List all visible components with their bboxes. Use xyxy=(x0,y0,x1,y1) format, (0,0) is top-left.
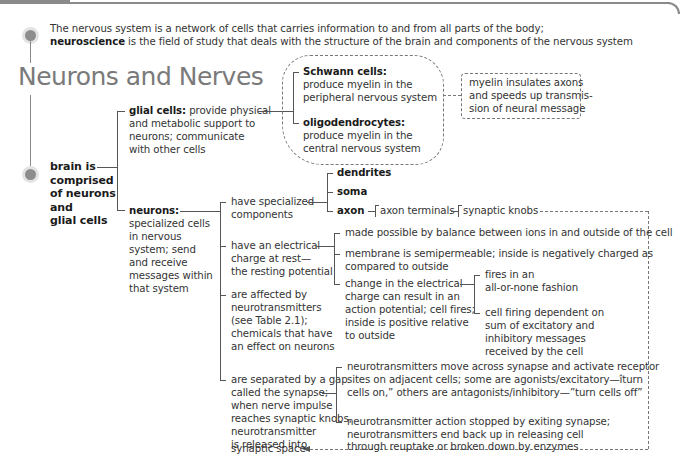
neurons-desc-4: and receive xyxy=(129,257,188,270)
resting-point-3e: to outside xyxy=(345,330,395,343)
myelin-note-2: and speeds up transmis- xyxy=(469,90,593,103)
connector xyxy=(117,111,118,210)
timeline-line xyxy=(30,41,31,63)
firing-2a: cell firing dependent on xyxy=(485,307,604,320)
connector xyxy=(316,246,334,247)
connector xyxy=(293,123,299,124)
dashed-connector xyxy=(540,211,648,212)
connector xyxy=(336,367,342,368)
branch-resting-3: the resting potential xyxy=(231,266,333,279)
firing-1a: fires in an xyxy=(485,269,534,282)
connector xyxy=(117,210,125,211)
root-label-1: brain is xyxy=(50,160,96,174)
branch-nt-1: are affected by xyxy=(231,289,307,302)
branch-syn-2: called the synapse; xyxy=(231,387,328,400)
top-bar-corner xyxy=(660,2,680,14)
intro-line-1: The nervous system is a network of cells… xyxy=(50,23,544,36)
firing-2b: sum of excitatory and xyxy=(485,320,594,333)
resting-point-3c: action potential; cell fires; xyxy=(345,304,475,317)
glial-line-1: glial cells: provide physical xyxy=(129,105,271,118)
oligo-line-1: produce myelin in the xyxy=(303,130,412,143)
schwann-line-1: produce myelin in the xyxy=(303,79,412,92)
connector xyxy=(220,202,226,203)
resting-point-1: made possible by balance between ions in… xyxy=(345,227,672,240)
branch-syn-7: synaptic space xyxy=(231,443,306,456)
connector xyxy=(180,211,220,212)
resting-point-2a: membrane is semipermeable; inside is neg… xyxy=(345,248,653,261)
neurons-desc-5: messages within xyxy=(129,270,213,283)
neurons-term: neurons: xyxy=(129,205,179,218)
connector xyxy=(336,367,337,422)
connector xyxy=(293,72,299,73)
branch-nt-3: (see Table 2.1); xyxy=(231,315,308,328)
dashed-connector xyxy=(443,95,461,96)
synapse-2c: through reuptake or broken down by enzym… xyxy=(347,441,578,454)
connector xyxy=(334,233,335,284)
glial-line-4: with other cells xyxy=(129,144,205,157)
connector xyxy=(220,246,226,247)
connector xyxy=(327,211,333,212)
schwann-line-2: peripheral nervous system xyxy=(303,92,437,105)
connector xyxy=(322,393,336,394)
connector xyxy=(474,275,475,313)
connector xyxy=(368,211,375,212)
connector xyxy=(293,111,294,123)
component-dendrites: dendrites xyxy=(337,167,391,180)
branch-syn-4: reaches synaptic knobs, xyxy=(231,413,352,426)
connector xyxy=(97,167,117,168)
neurons-desc-3: system; send xyxy=(129,244,196,257)
connector xyxy=(375,205,376,217)
myelin-note-3: sion of neural message xyxy=(469,103,585,116)
connector xyxy=(460,284,474,285)
resting-point-3b: charge can result in an xyxy=(345,291,460,304)
branch-nt-5: an effect on neurons xyxy=(231,341,335,354)
connector xyxy=(474,313,480,314)
connector xyxy=(458,205,459,217)
top-bar-rule xyxy=(70,2,670,4)
intro-rest: is the field of study that deals with th… xyxy=(125,36,633,47)
synapse-1a: neurotransmitters move across synapse an… xyxy=(347,361,659,374)
synapse-1b: sites on adjacent cells; some are agonis… xyxy=(347,374,643,387)
neurons-desc-6: that system xyxy=(129,283,189,296)
connector xyxy=(334,254,340,255)
branch-syn-3: when nerve impulse xyxy=(231,400,332,413)
connector xyxy=(220,380,226,381)
root-label-5: glial cells xyxy=(50,214,107,228)
connector xyxy=(327,192,333,193)
branch-syn-1: are separated by a gap xyxy=(231,374,348,387)
firing-2c: inhibitory messages xyxy=(485,333,586,346)
connector xyxy=(307,202,327,203)
timeline-line xyxy=(30,95,31,169)
connector xyxy=(293,72,294,111)
branch-nt-4: chemicals that have xyxy=(231,328,332,341)
connector xyxy=(327,173,333,174)
root-label-3: of neurons xyxy=(50,187,116,201)
axon-terminals: axon terminals xyxy=(380,205,454,218)
connector xyxy=(458,205,462,206)
myelin-note-1: myelin insulates axons xyxy=(469,77,583,90)
component-axon: axon xyxy=(337,205,364,218)
connector xyxy=(220,202,221,380)
intro-term: neuroscience xyxy=(50,36,125,47)
connector xyxy=(336,422,342,423)
root-label-2: comprised xyxy=(50,174,114,188)
resting-point-3d: inside is positive relative xyxy=(345,317,469,330)
intro-line-2: neuroscience is the field of study that … xyxy=(50,36,633,49)
top-bar-tab xyxy=(0,0,70,4)
firing-1b: all-or-none fashion xyxy=(485,282,578,295)
page-title: Neurons and Nerves xyxy=(18,62,263,91)
synapse-2a: neurotransmitter action stopped by exiti… xyxy=(347,416,610,429)
connector xyxy=(117,111,125,112)
branch-nt-2: neurotransmitters xyxy=(231,302,321,315)
branch-syn-5: neurotransmitter xyxy=(231,426,316,439)
branch-resting-1: have an electrical xyxy=(231,240,320,253)
glial-line-3: neurons; communicate xyxy=(129,131,244,144)
component-soma: soma xyxy=(337,186,367,199)
resting-point-2b: compared to outside xyxy=(345,261,449,274)
branch-components-1: have specialized xyxy=(231,196,314,209)
connector xyxy=(220,295,226,296)
synapse-2b: neurotransmitters end back up in releasi… xyxy=(347,429,584,442)
glial-term: glial cells: xyxy=(129,105,186,116)
synaptic-knobs: synaptic knobs xyxy=(463,205,538,218)
branch-components-2: components xyxy=(231,209,293,222)
